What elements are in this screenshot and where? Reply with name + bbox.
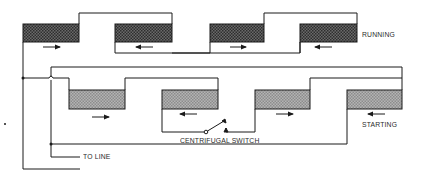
running-coil-3: [210, 24, 264, 42]
stray-dot: [4, 123, 6, 125]
switch-pivot: [204, 130, 208, 134]
running-link-3-4: [264, 13, 357, 24]
starting-link-1-2: [125, 78, 218, 90]
running-coil-2: [115, 24, 172, 42]
starting-coil-1: [69, 90, 125, 109]
starting-coil-1-lead: [55, 78, 69, 90]
running-link-2-3: [115, 42, 210, 53]
to-line-label: TO LINE: [83, 152, 111, 161]
running-coil-4: [300, 24, 357, 42]
switch-blade: [208, 121, 225, 131]
centrifugal-switch: [204, 119, 228, 134]
starting-link-switch-3: [226, 109, 255, 132]
starting-coil-3: [255, 90, 310, 109]
running-winding: [23, 13, 357, 53]
starting-label: STARTING: [362, 120, 397, 129]
starting-winding: [51, 78, 402, 144]
running-return: [51, 67, 402, 78]
starting-coil-4: [347, 90, 402, 109]
crossover-hop: [49, 76, 55, 78]
running-coil-1: [23, 24, 79, 42]
winding-diagram: [0, 0, 421, 180]
junction-dot-left: [22, 77, 25, 80]
starting-coil-2: [162, 90, 218, 109]
starting-link-2-switch: [162, 109, 204, 132]
junction-dot-lower: [50, 143, 53, 146]
running-link-1-2: [79, 13, 172, 24]
running-label: RUNNING: [362, 30, 395, 39]
starting-link-3-4: [310, 78, 402, 90]
centrifugal-switch-label: CENTRIFUGAL SWITCH: [180, 136, 260, 145]
